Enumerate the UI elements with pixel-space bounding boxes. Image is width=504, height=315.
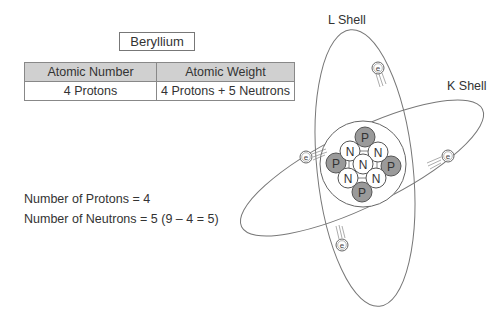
electron-label: e (376, 64, 381, 73)
electron-label: e (304, 153, 309, 162)
electron-label: e (446, 152, 451, 161)
neutron-label: N (346, 145, 355, 159)
atom-diagram: P P P P N N N N N e e e e (0, 0, 504, 315)
neutron-label: N (359, 158, 368, 172)
l-shell-label: L Shell (328, 13, 366, 27)
proton-label: P (358, 186, 366, 200)
neutron-label: N (372, 172, 381, 186)
proton-label: P (387, 160, 395, 174)
neutron-label: N (344, 172, 353, 186)
proton-label: P (361, 131, 369, 145)
electron-label: e (340, 241, 345, 250)
neutron-label: N (374, 146, 383, 160)
k-shell-label: K Shell (447, 79, 487, 93)
proton-label: P (332, 157, 340, 171)
